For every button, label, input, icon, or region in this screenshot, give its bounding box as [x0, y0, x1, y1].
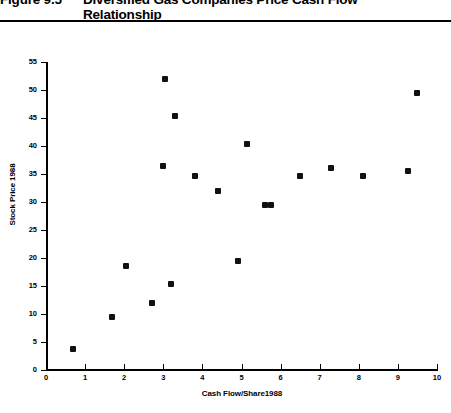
data-point: [328, 165, 334, 171]
x-axis-tick-mark: [320, 364, 321, 371]
x-axis-tick-mark: [281, 364, 282, 371]
x-axis-tick-label: 4: [190, 374, 214, 382]
data-point: [297, 173, 303, 179]
x-axis-tick-label: 8: [347, 374, 371, 382]
x-axis-tick-label: 1: [73, 374, 97, 382]
x-axis-title: Cash Flow/Share1988: [46, 389, 438, 398]
y-axis-tick-mark: [41, 62, 48, 63]
y-axis-tick-mark: [41, 314, 48, 315]
y-axis-tick-mark: [41, 230, 48, 231]
x-axis-tick-mark: [202, 364, 203, 371]
y-axis-tick-mark: [41, 258, 48, 259]
x-axis-tick-mark: [46, 364, 47, 371]
x-axis-tick-mark: [163, 364, 164, 371]
x-axis-tick-label: 0: [34, 374, 58, 382]
data-point: [172, 113, 178, 119]
data-point: [109, 314, 115, 320]
data-point: [149, 300, 155, 306]
scatter-plot: 0510152025303540455055 012345678910 Cash…: [0, 0, 451, 413]
data-point: [123, 263, 129, 269]
data-point: [70, 346, 76, 352]
data-point: [168, 281, 174, 287]
x-axis-tick-mark: [242, 364, 243, 371]
x-axis-tick-label: 9: [386, 374, 410, 382]
y-axis-tick-mark: [41, 202, 48, 203]
y-axis-tick-label: 50: [7, 86, 37, 94]
x-axis-tick-label: 6: [269, 374, 293, 382]
x-axis-tick-mark: [85, 364, 86, 371]
y-axis-tick-label: 0: [7, 366, 37, 374]
x-axis-tick-mark: [124, 364, 125, 371]
y-axis-tick-label: 45: [7, 114, 37, 122]
y-axis-title: Stock Price 1988: [8, 145, 17, 245]
x-axis-tick-label: 3: [151, 374, 175, 382]
x-axis-tick-label: 5: [230, 374, 254, 382]
y-axis-line: [46, 62, 48, 371]
y-axis-tick-mark: [41, 118, 48, 119]
y-axis-tick-mark: [41, 174, 48, 175]
x-axis-tick-mark: [437, 364, 438, 371]
y-axis-tick-label: 20: [7, 254, 37, 262]
data-point: [162, 76, 168, 82]
y-axis-tick-mark: [41, 286, 48, 287]
data-point: [414, 90, 420, 96]
data-point: [215, 188, 221, 194]
data-point: [235, 258, 241, 264]
y-axis-tick-mark: [41, 90, 48, 91]
x-axis-tick-mark: [359, 364, 360, 371]
y-axis-tick-label: 5: [7, 338, 37, 346]
y-axis-tick-mark: [41, 342, 48, 343]
data-point: [268, 202, 274, 208]
y-axis-tick-mark: [41, 146, 48, 147]
y-axis-tick-label: 55: [7, 58, 37, 66]
data-point: [360, 173, 366, 179]
x-axis-tick-label: 2: [112, 374, 136, 382]
data-point: [244, 141, 250, 147]
data-point: [160, 163, 166, 169]
y-axis-tick-label: 15: [7, 282, 37, 290]
x-axis-tick-label: 10: [425, 374, 449, 382]
y-axis-tick-label: 10: [7, 310, 37, 318]
x-axis-tick-label: 7: [308, 374, 332, 382]
x-axis-tick-mark: [398, 364, 399, 371]
data-point: [192, 173, 198, 179]
data-point: [405, 168, 411, 174]
